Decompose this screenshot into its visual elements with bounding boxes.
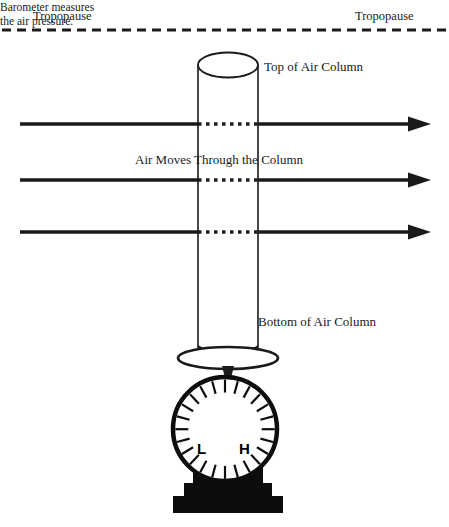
barometer (173, 377, 283, 513)
air-column (198, 53, 258, 357)
diagram-canvas (0, 0, 449, 527)
top-of-air-column-label: Top of Air Column (264, 59, 363, 75)
air-moves-through-column-label: Air Moves Through the Column (135, 152, 303, 168)
stand-foot (173, 496, 283, 513)
air-column-barometer-diagram: Tropopause Tropopause Top of Air Column … (0, 0, 449, 527)
arrow-3-head (408, 225, 431, 240)
arrow-1-head (408, 117, 431, 132)
tropopause-label-left: Tropopause (33, 9, 92, 25)
column-base-plate (178, 347, 278, 378)
tropopause-label-right: Tropopause (355, 9, 414, 25)
column-top-ellipse (198, 53, 258, 78)
base-plate-ellipse (178, 347, 278, 369)
bottom-of-air-column-label: Bottom of Air Column (258, 314, 376, 330)
barometer-high-marker: H (239, 440, 250, 457)
airflow-arrow-2 (20, 173, 431, 188)
barometer-dial-face (173, 377, 277, 481)
barometer-low-marker: L (197, 440, 206, 457)
airflow-arrows (20, 117, 431, 240)
arrow-2-head (408, 173, 431, 188)
airflow-arrow-3 (20, 225, 431, 240)
airflow-arrow-1 (20, 117, 431, 132)
